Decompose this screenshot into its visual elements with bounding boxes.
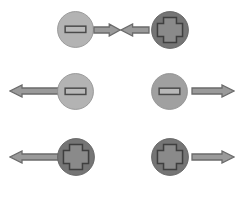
arrow-right-long-1 [191,84,235,98]
disc-cross-dark-2 [57,138,95,176]
slot-head-icon [159,88,180,94]
arrow-right-short-1 [93,23,121,37]
arrow-left-icon [10,151,64,163]
arrow-left-icon [10,85,64,97]
slot-head-icon [65,26,86,32]
arrow-right-icon [192,151,234,163]
arrow-right-long-2 [191,150,235,164]
arrow-right-icon [94,24,120,36]
disc-slot-light-1 [57,11,94,48]
arrow-left-short-1 [120,23,150,37]
disc-cross-dark-3 [151,138,189,176]
diagram-canvas [0,0,243,197]
disc-slot-light-2 [57,73,94,110]
slot-head-icon [65,88,86,94]
arrow-right-icon [192,85,234,97]
disc-slot-medium-1 [151,73,188,110]
disc-cross-dark-1 [151,11,189,49]
arrow-left-icon [121,24,149,36]
